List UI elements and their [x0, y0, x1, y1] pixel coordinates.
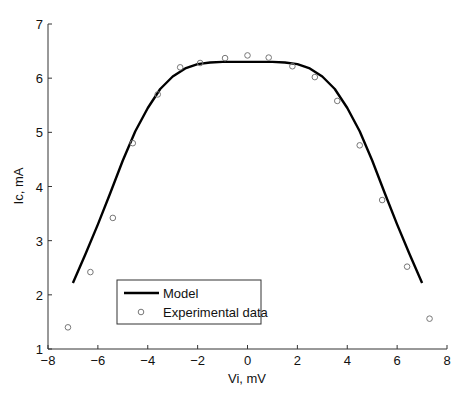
- legend-model-label: Model: [163, 286, 199, 301]
- data-point: [245, 53, 251, 59]
- y-tick-label: 5: [36, 125, 43, 140]
- legend: Model Experimental data: [117, 280, 269, 324]
- y-axis-label: Ic, mA: [11, 167, 26, 204]
- data-point: [177, 65, 183, 71]
- y-tick-label: 1: [36, 342, 43, 357]
- x-tick-label: 6: [394, 353, 401, 368]
- model-curve: [73, 62, 422, 283]
- data-point: [379, 197, 385, 203]
- y-tick-label: 7: [36, 17, 43, 32]
- data-point: [357, 143, 363, 149]
- data-point: [65, 325, 71, 331]
- x-tick-label: −6: [90, 353, 105, 368]
- x-tick-label: −4: [140, 353, 155, 368]
- legend-experimental-label: Experimental data: [163, 305, 269, 320]
- y-tick-label: 4: [36, 180, 43, 195]
- x-tick-label: 2: [294, 353, 301, 368]
- x-tick-label: −2: [190, 353, 205, 368]
- chart: −8−6−4−2024681234567 Vi, mV Ic, mA Model…: [0, 0, 469, 396]
- y-tick-label: 2: [36, 288, 43, 303]
- data-point: [312, 74, 318, 80]
- x-axis-label: Vi, mV: [228, 371, 266, 386]
- data-point: [222, 55, 228, 61]
- x-tick-label: 4: [344, 353, 351, 368]
- model-line: [73, 62, 422, 283]
- data-point: [110, 215, 116, 221]
- data-point: [88, 269, 94, 275]
- y-tick-label: 3: [36, 234, 43, 249]
- data-point: [266, 55, 272, 61]
- data-point: [404, 264, 410, 270]
- x-tick-label: 0: [244, 353, 251, 368]
- y-tick-label: 6: [36, 71, 43, 86]
- x-tick-label: 8: [443, 353, 450, 368]
- data-point: [334, 98, 340, 104]
- data-point: [427, 316, 433, 322]
